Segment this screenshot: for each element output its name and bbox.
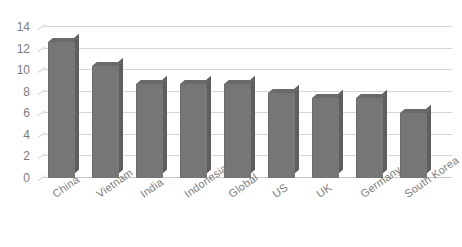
bar-indonesia[interactable] xyxy=(180,84,206,178)
bar-front-face xyxy=(180,84,207,178)
y-axis-tick-label: 12 xyxy=(2,43,30,55)
bar-front-face xyxy=(268,93,295,178)
gridline xyxy=(44,26,452,27)
plot-area xyxy=(38,20,452,185)
bar-chart: 02468101214 ChinaVietnamIndiaIndonesiaGl… xyxy=(0,0,462,247)
x-axis-label-us: US xyxy=(270,181,290,200)
bar-global[interactable] xyxy=(224,84,250,178)
y-axis-tick-label: 10 xyxy=(2,64,30,76)
x-axis-label-uk: UK xyxy=(314,181,334,200)
bar-vietnam[interactable] xyxy=(92,66,118,178)
y-axis-tick-label: 0 xyxy=(2,172,30,184)
bar-front-face xyxy=(356,98,383,178)
y-axis-tick-label: 4 xyxy=(2,129,30,141)
x-axis: ChinaVietnamIndiaIndonesiaGlobalUSUKGerm… xyxy=(38,182,452,246)
y-axis-tick-label: 14 xyxy=(2,21,30,33)
bar-china[interactable] xyxy=(48,42,74,178)
bar-south-korea[interactable] xyxy=(400,113,426,178)
bar-front-face xyxy=(92,66,119,178)
y-axis-tick-label: 6 xyxy=(2,107,30,119)
y-axis: 02468101214 xyxy=(0,20,30,185)
bar-front-face xyxy=(400,113,427,178)
bar-us[interactable] xyxy=(268,93,294,178)
bar-germany[interactable] xyxy=(356,98,382,178)
bar-front-face xyxy=(224,84,251,178)
bar-front-face xyxy=(136,84,163,178)
bar-india[interactable] xyxy=(136,84,162,178)
bar-front-face xyxy=(48,42,75,178)
y-axis-tick-label: 2 xyxy=(2,150,30,162)
bar-front-face xyxy=(312,98,339,178)
bar-uk[interactable] xyxy=(312,98,338,178)
gridline xyxy=(44,48,452,49)
y-axis-tick-label: 8 xyxy=(2,86,30,98)
